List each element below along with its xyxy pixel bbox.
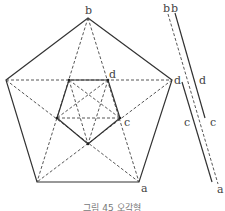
label-inner-d: d xyxy=(109,68,116,81)
side-label-a: a xyxy=(217,183,224,196)
dashed-segment xyxy=(168,14,218,184)
solid-segment-bd xyxy=(175,13,205,118)
vertex-dots xyxy=(56,79,122,146)
label-inner-c: c xyxy=(124,116,130,129)
side-label-c1: c xyxy=(184,116,190,129)
label-bottom-a: a xyxy=(141,182,148,195)
side-label-b2: b xyxy=(171,2,178,15)
label-top-b: b xyxy=(85,4,92,17)
solid-segment-dc xyxy=(182,82,212,182)
outer-pentagon xyxy=(6,18,172,182)
label-right-d: d xyxy=(174,74,181,87)
side-label-b1: b xyxy=(163,2,170,15)
side-label-c2: c xyxy=(210,116,216,129)
inner-pentagon xyxy=(57,80,120,144)
pentagon-diagram: b d d c a b b d c c a 그림 45 오각형 xyxy=(0,0,225,211)
segment-comparison xyxy=(168,13,218,184)
figure-caption: 그림 45 오각형 xyxy=(83,202,140,211)
side-label-d2: d xyxy=(199,74,206,87)
